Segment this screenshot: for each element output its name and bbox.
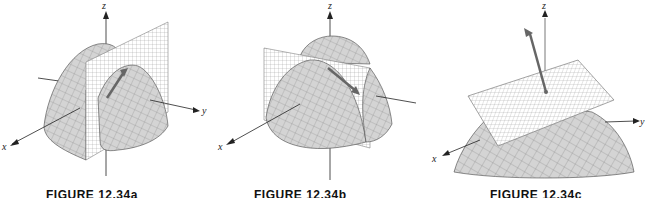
x-axis-label: x xyxy=(217,141,223,152)
figure-a-caption: FIGURE 12.34a xyxy=(46,188,138,198)
figure-b: z x FIGURE 12.34b xyxy=(210,0,420,198)
z-arrowhead-icon xyxy=(327,11,333,19)
figure-a: z y x FIGURE 12.34a xyxy=(0,0,210,198)
z-axis-label: z xyxy=(101,0,106,11)
figure-c-caption: FIGURE 12.34c xyxy=(490,188,582,198)
figure-b-caption: FIGURE 12.34b xyxy=(254,188,347,198)
x-axis-label: x xyxy=(1,141,7,152)
figure-c-plot: z y x xyxy=(420,0,646,185)
z-arrowhead-icon xyxy=(103,11,109,19)
y-axis xyxy=(605,121,636,122)
y-axis-label: y xyxy=(639,116,645,127)
z-axis-label: z xyxy=(541,0,546,11)
z-axis-label: z xyxy=(327,0,332,11)
figure-a-plot: z y x xyxy=(0,0,210,185)
figure-b-plot: z x xyxy=(210,0,420,185)
x-axis-label: x xyxy=(431,153,437,164)
figure-c: z y x FIGURE 12.34c xyxy=(420,0,646,198)
z-arrowhead-icon xyxy=(542,10,548,17)
y-axis-label: y xyxy=(201,105,207,116)
